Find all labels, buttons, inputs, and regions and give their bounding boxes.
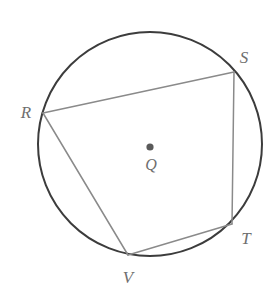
vertex-label-t: T [241, 230, 250, 247]
chord-st [232, 72, 234, 224]
center-label-q: Q [145, 157, 157, 173]
chord-rs [43, 72, 234, 113]
geometry-canvas [0, 0, 280, 296]
vertex-label-v: V [123, 269, 133, 286]
geometry-figure: Q R S T V [0, 0, 280, 296]
center-point-dot [146, 143, 153, 150]
vertex-label-r: R [21, 104, 31, 121]
vertex-label-s: S [240, 49, 249, 66]
chord-tv [128, 224, 232, 255]
chord-vr [43, 113, 128, 255]
